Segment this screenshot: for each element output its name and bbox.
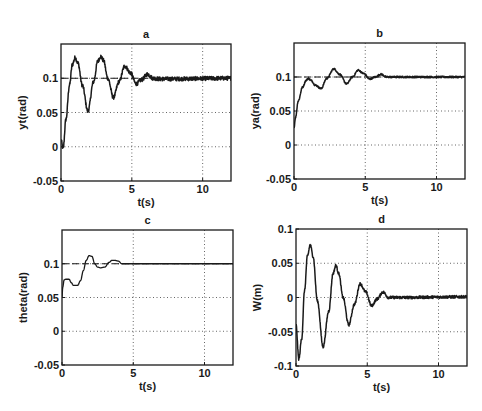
y-axis-label: theta(rad): [17, 272, 29, 323]
x-tick-label: 5: [364, 368, 370, 380]
x-tick-label: 5: [129, 183, 135, 195]
x-axis-label: t(s): [139, 380, 156, 392]
x-axis-label: t(s): [371, 194, 388, 206]
subplot-title: a: [143, 28, 150, 40]
y-tick-label: 0.05: [270, 105, 291, 117]
data-line-theta: [62, 256, 233, 298]
x-tick-label: 0: [59, 367, 65, 379]
subplot-title: c: [144, 214, 150, 226]
y-tick-label: -0.05: [34, 359, 59, 371]
subplot-b: 0510-0.0500.050.1bt(s)ya(rad): [249, 27, 465, 206]
y-tick-label: 0: [285, 139, 291, 151]
x-axis-label: t(s): [373, 381, 390, 393]
subplot-c: 0510-0.0500.050.1ct(s)theta(rad): [17, 214, 233, 392]
figure: 0510-0.0500.050.1at(s)yt(rad)0510-0.0500…: [0, 0, 482, 411]
x-tick-label: 5: [362, 181, 368, 193]
y-tick-label: 0.1: [276, 71, 291, 83]
x-tick-label: 10: [432, 368, 444, 380]
y-tick-label: 0.05: [37, 107, 58, 119]
y-axis-label: ya(rad): [249, 92, 261, 129]
y-tick-label: 0: [53, 325, 59, 337]
x-tick-label: 5: [130, 367, 136, 379]
x-tick-label: 0: [293, 368, 299, 380]
x-tick-label: 10: [198, 367, 210, 379]
data-line-W: [296, 245, 467, 361]
y-tick-label: 0.1: [44, 258, 59, 270]
figure-canvas: 0510-0.0500.050.1at(s)yt(rad)0510-0.0500…: [0, 0, 482, 411]
subplot-title: b: [376, 27, 383, 39]
y-tick-label: 0.05: [272, 257, 293, 269]
y-tick-label: -0.1: [274, 360, 293, 372]
y-tick-label: 0.1: [278, 223, 293, 235]
x-tick-label: 10: [430, 181, 442, 193]
y-axis-label: yt(rad): [16, 95, 28, 130]
y-tick-label: 0: [287, 292, 293, 304]
x-tick-label: 0: [291, 181, 297, 193]
x-tick-label: 10: [197, 183, 209, 195]
y-tick-label: 0.1: [43, 72, 58, 84]
axes-box: [62, 230, 233, 365]
data-line-yt: [61, 55, 231, 148]
subplot-a: 0510-0.0500.050.1at(s)yt(rad): [16, 28, 231, 208]
y-tick-label: 0: [52, 141, 58, 153]
y-tick-label: 0.05: [38, 292, 59, 304]
x-tick-label: 0: [58, 183, 64, 195]
y-tick-label: -0.05: [266, 173, 291, 185]
y-axis-label: W(m): [251, 283, 263, 311]
subplot-d: 0510-0.1-0.0500.050.1dt(s)W(m): [251, 213, 467, 393]
x-axis-label: t(s): [137, 196, 154, 208]
y-tick-label: -0.05: [268, 326, 293, 338]
axes-box: [294, 43, 465, 179]
subplot-title: d: [378, 213, 385, 225]
y-tick-label: -0.05: [33, 175, 58, 187]
